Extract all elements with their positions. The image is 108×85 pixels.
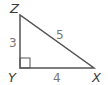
side-label-zx: 5 <box>56 28 64 42</box>
side-label-zy: 3 <box>9 36 17 50</box>
vertex-label-z: Z <box>9 1 20 16</box>
vertex-label-y: Y <box>8 70 17 85</box>
triangle-diagram: Z Y X 3 5 4 <box>0 0 108 85</box>
side-label-yx: 4 <box>53 71 61 85</box>
vertex-label-x: X <box>91 70 102 85</box>
right-angle-marker <box>20 58 30 68</box>
